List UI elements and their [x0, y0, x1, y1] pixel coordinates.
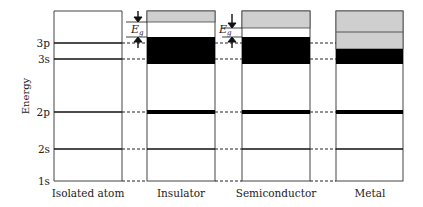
metal-upper-band: [336, 11, 403, 49]
label-2p: 2p: [37, 106, 51, 118]
y-axis-label: Energy: [20, 77, 31, 114]
semiconductor-bands: [242, 11, 310, 149]
insulator-frame: [147, 11, 215, 181]
energy-band-diagram: Eg Eg 3p 3s 2p 2s 1s Energy Isolated ato…: [0, 0, 423, 207]
metal-bands: [336, 11, 403, 149]
semiconductor-frame: [242, 11, 310, 181]
isolated-atom-frame: [54, 11, 122, 181]
insulator-bands: [147, 11, 215, 149]
column-labels: Isolated atom Insulator Semiconductor Me…: [52, 187, 386, 199]
insulator-conduction-band: [147, 11, 215, 22]
semiconductor-conduction-band: [242, 11, 310, 28]
label-3s: 3s: [38, 53, 50, 65]
label-insulator: Insulator: [157, 187, 206, 199]
level-labels: 3p 3s 2p 2s 1s: [37, 37, 51, 187]
insulator-gap-label: Eg: [130, 23, 144, 37]
atomic-levels: [54, 43, 122, 149]
semiconductor-valence-band: [242, 37, 310, 64]
insulator-valence-band: [147, 37, 215, 64]
semiconductor-2p-band: [242, 110, 310, 114]
label-3p: 3p: [37, 37, 51, 49]
label-semiconductor: Semiconductor: [236, 187, 318, 199]
label-isolated-atom: Isolated atom: [52, 187, 125, 199]
label-metal: Metal: [355, 187, 386, 199]
metal-filled-band: [336, 49, 403, 64]
insulator-2p-band: [147, 110, 215, 114]
label-2s: 2s: [38, 143, 50, 155]
metal-2p-band: [336, 110, 403, 114]
label-1s: 1s: [38, 175, 50, 187]
